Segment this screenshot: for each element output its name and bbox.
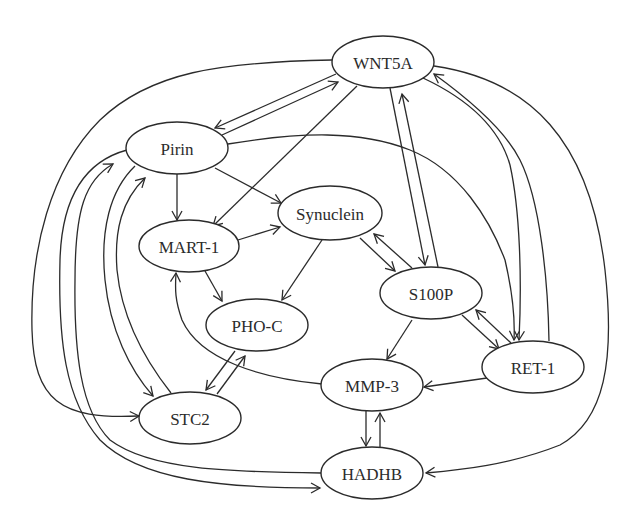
node-phoc[interactable]: PHO-C [206,299,308,351]
node-mart1[interactable]: MART-1 [139,220,239,272]
node-label-ret1: RET-1 [511,359,556,378]
node-mmp3[interactable]: MMP-3 [321,359,423,411]
gene-network-diagram: WNT5A Pirin Synuclein MART-1 S100P PHO-C… [0,0,637,522]
edges-layer [32,60,609,488]
edge-s100p-ret1 [462,315,499,349]
nodes-layer: WNT5A Pirin Synuclein MART-1 S100P PHO-C… [126,36,584,499]
node-label-synuclein: Synuclein [296,205,364,224]
node-ret1[interactable]: RET-1 [482,341,584,393]
node-label-mmp3: MMP-3 [345,377,399,396]
edge-pirin-synuclein [215,168,281,203]
node-synuclein[interactable]: Synuclein [278,186,382,240]
edge-phoc-stc2 [206,351,235,390]
node-label-hadhb: HADHB [342,465,402,484]
edge-synuclein-phoc [282,240,322,300]
node-pirin[interactable]: Pirin [126,122,228,174]
node-stc2[interactable]: STC2 [139,392,241,444]
edge-mart1-synuclein [238,227,280,240]
node-label-pirin: Pirin [160,140,194,159]
edge-synuclein-s100p [360,238,395,271]
edge-stc2-phoc [217,356,245,394]
edge-s100p-synuclein [374,234,412,268]
edge-stc2-pirin [116,178,171,393]
node-wnt5a[interactable]: WNT5A [332,36,434,88]
node-label-mart1: MART-1 [159,238,220,257]
node-label-phoc: PHO-C [231,317,282,336]
node-label-s100p: S100P [409,285,453,304]
node-label-stc2: STC2 [170,410,210,429]
node-label-wnt5a: WNT5A [353,54,413,73]
edge-pirin-wnt5a [222,82,338,135]
node-s100p[interactable]: S100P [380,267,482,319]
edge-wnt5a-pirin [215,74,336,128]
edge-ret1-s100p [476,310,511,343]
node-hadhb[interactable]: HADHB [321,447,423,499]
edge-mart1-phoc [205,271,222,301]
edge-ret1-mmp3 [424,378,487,387]
edge-s100p-mmp3 [387,320,412,359]
